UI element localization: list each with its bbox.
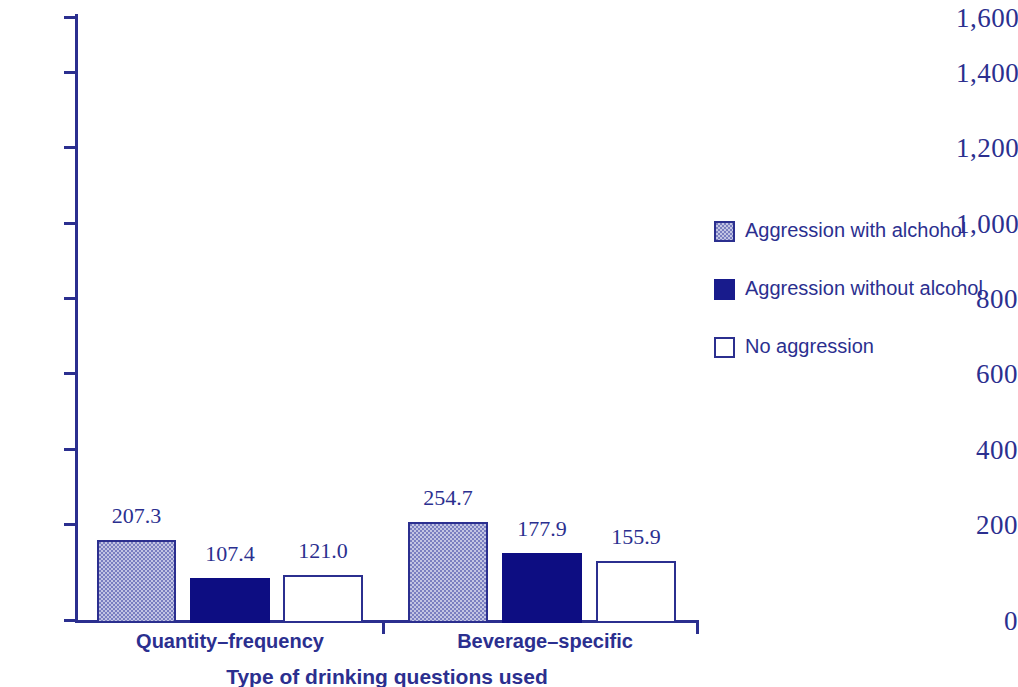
y-tick-label-0: 0: [956, 608, 1018, 635]
bar-value-177-9: 177.9: [502, 518, 582, 540]
legend-item-no-aggression[interactable]: No aggression: [712, 330, 1018, 388]
legend-swatch-solid-icon: [714, 279, 735, 300]
legend-label-aggression-without-alcohol: Aggression without alcohol: [745, 274, 983, 302]
y-tick-label-1400: 1,400: [956, 60, 1018, 87]
x-tick-axis-end: [696, 620, 699, 634]
bar-quantity-frequency-no-aggression: [283, 575, 363, 623]
bar-value-107-4: 107.4: [190, 543, 270, 565]
bar-chart: 1,600 1,400 1,200 1,000 800 600 400 200 …: [0, 0, 1018, 687]
bar-value-207-3: 207.3: [97, 505, 176, 527]
legend-label-no-aggression: No aggression: [745, 332, 874, 360]
bar-value-155-9: 155.9: [596, 526, 676, 548]
y-tick-label-400: 400: [956, 437, 1018, 464]
x-category-label-quantity-frequency: Quantity–frequency: [90, 631, 370, 651]
legend: Aggression with alchohol Aggression with…: [712, 214, 1018, 388]
legend-label-aggression-with-alcohol: Aggression with alchohol: [745, 216, 966, 244]
legend-item-aggression-with-alcohol[interactable]: Aggression with alchohol: [712, 214, 1018, 272]
x-axis-title: Type of drinking questions used: [75, 666, 699, 687]
bar-quantity-frequency-aggression-with-alcohol: [97, 540, 176, 623]
legend-swatch-hatched-icon: [714, 221, 735, 242]
x-tick-category-separator: [382, 620, 385, 634]
bar-beverage-specific-no-aggression: [596, 561, 676, 623]
bar-value-121-0: 121.0: [283, 540, 363, 562]
y-tick-label-200: 200: [956, 512, 1018, 539]
legend-swatch-open-icon: [714, 337, 735, 358]
x-category-label-beverage-specific: Beverage–specific: [400, 631, 690, 651]
bar-value-254-7: 254.7: [408, 487, 488, 509]
y-tick-label-1600: 1,600: [956, 5, 1018, 32]
bar-beverage-specific-aggression-without-alcohol: [502, 553, 582, 623]
legend-item-aggression-without-alcohol[interactable]: Aggression without alcohol: [712, 272, 1018, 330]
bar-quantity-frequency-aggression-without-alcohol: [190, 578, 270, 623]
bar-beverage-specific-aggression-with-alcohol: [408, 522, 488, 623]
y-tick-label-1200: 1,200: [956, 135, 1018, 162]
y-axis-line: [75, 14, 78, 623]
